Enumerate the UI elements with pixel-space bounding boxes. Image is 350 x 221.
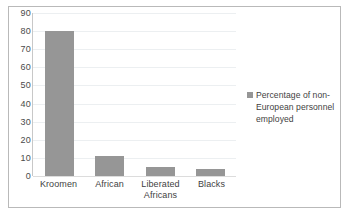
legend-label: Percentage of non-European personnel emp…	[256, 89, 339, 125]
gridline-0	[33, 176, 236, 177]
y-axis-tick-40: 40	[21, 99, 31, 108]
y-axis-tick-50: 50	[21, 81, 31, 90]
bar[interactable]	[196, 169, 225, 176]
bar-slot	[186, 13, 237, 176]
chart-figure: 9080706050403020100 KroomenAfricanLibera…	[0, 0, 350, 221]
x-axis-label: Liberated Africans	[135, 179, 186, 201]
bar[interactable]	[146, 167, 175, 176]
x-axis-label: Blacks	[186, 179, 237, 201]
y-axis-tick-labels: 9080706050403020100	[9, 13, 31, 176]
y-axis-tick-60: 60	[21, 63, 31, 72]
chart-frame: 9080706050403020100 KroomenAfricanLibera…	[8, 6, 341, 208]
x-axis-label: Kroomen	[33, 179, 84, 201]
y-axis-tick-90: 90	[21, 9, 31, 18]
plot-area	[32, 13, 236, 176]
bar-slot	[135, 13, 186, 176]
bar-series	[34, 13, 236, 176]
x-axis-category-labels: KroomenAfricanLiberated AfricansBlacks	[33, 179, 237, 201]
bar-slot	[34, 13, 85, 176]
y-axis-tick-70: 70	[21, 45, 31, 54]
y-axis-tick-20: 20	[21, 135, 31, 144]
x-axis-label: African	[84, 179, 135, 201]
y-axis-tick-80: 80	[21, 27, 31, 36]
bar[interactable]	[95, 156, 124, 176]
legend-swatch-icon	[247, 92, 253, 98]
y-axis-tick-30: 30	[21, 117, 31, 126]
y-axis-tick-0: 0	[26, 172, 31, 181]
y-axis-tick-10: 10	[21, 153, 31, 162]
plot-wrapper: 9080706050403020100 KroomenAfricanLibera…	[9, 7, 342, 209]
bar[interactable]	[45, 31, 74, 176]
bar-slot	[85, 13, 136, 176]
chart-legend: Percentage of non-European personnel emp…	[247, 89, 339, 125]
